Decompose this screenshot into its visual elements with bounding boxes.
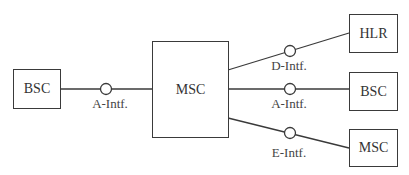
- edge-label-d: D-Intf.: [271, 58, 307, 74]
- node-msc-center: MSC: [152, 41, 229, 138]
- node-hlr: HLR: [349, 14, 398, 53]
- edge-label-a-left: A-Intf.: [92, 96, 128, 112]
- edge-label-e: E-Intf.: [272, 145, 306, 161]
- node-label: MSC: [359, 140, 389, 156]
- interface-circle-icon: [285, 128, 296, 139]
- node-bsc-right: BSC: [349, 72, 398, 111]
- interface-circle-icon: [285, 84, 296, 95]
- node-msc-right: MSC: [349, 129, 398, 167]
- interface-circle-icon: [285, 46, 296, 57]
- node-label: HLR: [360, 26, 388, 42]
- node-label: BSC: [360, 84, 386, 100]
- edge-label-a-right: A-Intf.: [271, 96, 307, 112]
- interface-circle-icon: [101, 84, 112, 95]
- node-label: BSC: [24, 81, 50, 97]
- node-label: MSC: [176, 82, 206, 98]
- node-bsc-left: BSC: [13, 69, 61, 109]
